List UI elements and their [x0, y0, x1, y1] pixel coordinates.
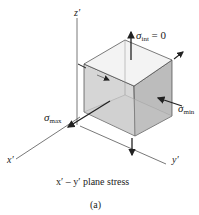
sigma-min-label: σmin: [178, 103, 194, 116]
sigma-min-back-arrow: [174, 52, 183, 59]
sigma-int-subscript: int: [141, 35, 148, 43]
sigma-max-label: σmax: [44, 112, 62, 125]
z-axis-label: z′: [74, 8, 80, 18]
y-axis-label: y′: [172, 155, 179, 165]
y-axis: [80, 126, 166, 164]
figure-label: (a): [90, 200, 101, 210]
sigma-min-subscript: min: [183, 108, 194, 116]
sigma-int-value: = 0: [149, 29, 166, 41]
sigma-int-label: σint = 0: [136, 30, 166, 43]
sigma-max-subscript: max: [49, 117, 61, 125]
caption: x′ – y′ plane stress: [56, 177, 129, 187]
x-axis-label: x′: [7, 155, 14, 165]
